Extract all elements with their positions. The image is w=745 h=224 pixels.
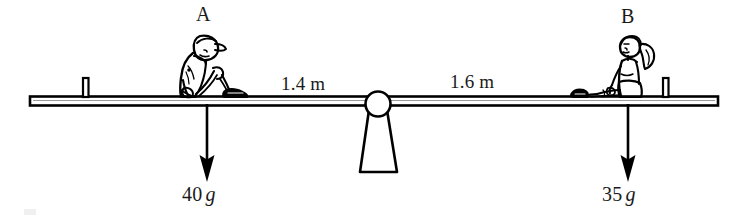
point-label-a: A [196,4,211,24]
plank-peg-right [663,78,669,97]
force-label-left: 40g [182,184,216,204]
force-left-magnitude: 40 [182,183,202,205]
force-right-magnitude: 35 [602,183,622,205]
seesaw-diagram: A B 1.4 m 1.6 m 40g 35g [0,0,745,224]
distance-label-left: 1.4 m [281,74,325,93]
force-arrow-left [200,104,215,182]
distance-label-right: 1.6 m [450,72,494,91]
force-left-unit: g [202,183,215,205]
scan-artifact [24,209,36,215]
force-right-unit: g [622,183,635,205]
point-label-b: B [621,6,635,26]
fulcrum [360,92,397,173]
child-figure-B [571,36,654,97]
force-label-right: 35g [602,184,636,204]
child-figure-A [180,36,247,98]
plank-peg-left [83,78,89,97]
force-arrow-right [621,104,636,182]
